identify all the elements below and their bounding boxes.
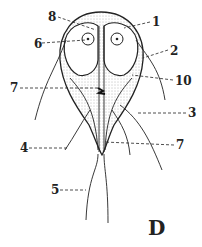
label-2: 2 bbox=[170, 45, 178, 57]
organism-drawing bbox=[0, 0, 202, 247]
label-5: 5 bbox=[51, 184, 59, 196]
label-9: 7 bbox=[10, 82, 18, 94]
nucleus-right-region bbox=[104, 23, 138, 76]
nucleus-left-region bbox=[64, 23, 98, 76]
label-7: 7 bbox=[176, 139, 184, 151]
panel-letter: D bbox=[148, 218, 165, 238]
label-1: 1 bbox=[152, 16, 160, 28]
label-3: 3 bbox=[188, 107, 196, 119]
diagram-figure: 8 1 6 2 10 7 3 7 4 5 D bbox=[0, 0, 202, 247]
label-6: 6 bbox=[34, 38, 42, 50]
label-10: 10 bbox=[175, 75, 192, 87]
label-4: 4 bbox=[20, 142, 28, 154]
label-8: 8 bbox=[48, 11, 56, 23]
